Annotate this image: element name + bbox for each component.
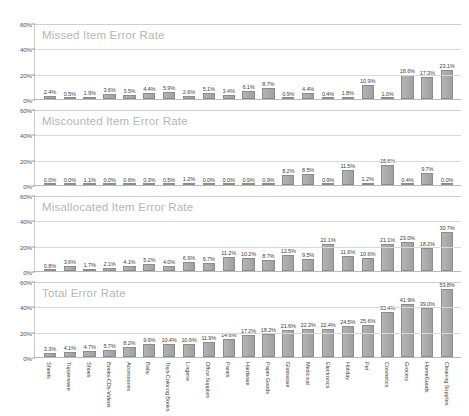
bar-slot: 3.4% [219, 24, 239, 99]
bar [64, 97, 76, 99]
bar-value-label: 11.5% [340, 163, 355, 169]
bar [163, 266, 175, 271]
x-axis-category-cell: Panes [218, 360, 238, 416]
bar-value-label: 3.4% [223, 88, 235, 94]
bar-slot: 4.1% [119, 196, 139, 271]
bar [342, 97, 354, 99]
bar-slot: 6.9% [179, 196, 199, 271]
plot-area-0: Missed Item Error Rate 2.4%0.5%1.9%3.6%3… [34, 24, 461, 100]
bar-slot: 1.2% [358, 110, 378, 185]
bar [183, 96, 195, 99]
bar-slot: 0.5% [60, 24, 80, 99]
bar-value-label: 2.6% [183, 89, 195, 95]
bar [64, 352, 76, 357]
bar [44, 96, 56, 99]
bar-value-label: 0.5% [163, 177, 175, 183]
error-rate-chart-sheet: Missed Item Error Rate 2.4%0.5%1.9%3.6%3… [0, 0, 469, 416]
bar [302, 93, 314, 99]
bar-slot: 0.9% [258, 110, 278, 185]
bar [44, 353, 56, 357]
x-axis-category-cell: Cleaning Supplies [437, 360, 457, 416]
bar-value-label: 10.4% [162, 337, 177, 343]
y-axis-tick-mark [32, 135, 35, 136]
y-axis-tick-label: 0% [23, 183, 32, 190]
x-axis-category-cell: Medicinal [298, 360, 318, 416]
bar-slot: 3.5% [119, 24, 139, 99]
bar-slot: 11.2% [219, 196, 239, 271]
bar-slot: 0.0% [60, 110, 80, 185]
bar-value-label: 3.5% [123, 88, 135, 94]
bar [342, 256, 354, 271]
bar [83, 97, 95, 99]
bar-slot: 6.7% [199, 196, 219, 271]
gridline [35, 110, 461, 111]
bar-slot: 0.9% [318, 110, 338, 185]
y-axis-tick-mark [32, 282, 35, 283]
bar-slot: 0.6% [119, 110, 139, 185]
bar [163, 183, 175, 185]
bar [362, 258, 374, 271]
x-axis-category-label: Shoes [86, 362, 92, 377]
y-axis-tick-mark [32, 246, 35, 247]
plot-area-2: Misallocated Item Error Rate 0.8%3.6%1.7… [34, 196, 461, 272]
y-axis-tick-mark [32, 100, 35, 101]
bar-value-label: 0.9% [282, 91, 294, 97]
bar-value-label: 0.0% [223, 177, 235, 183]
bar-value-label: 22.4% [320, 322, 335, 328]
x-axis-category-label: Sheets [46, 362, 52, 379]
bar-value-label: 3.6% [64, 259, 76, 265]
bar-slot: 1.2% [179, 110, 199, 185]
x-axis-category-label: Cosmetics [384, 362, 390, 387]
bar-slot: 23.0% [397, 196, 417, 271]
bar [83, 269, 95, 271]
bar-slot: 18.6% [397, 24, 417, 99]
bar-value-label: 4.7% [84, 344, 96, 350]
x-axis-category-label: Lingerie [185, 362, 191, 381]
bar [83, 351, 95, 357]
bar-value-label: 0.0% [441, 177, 453, 183]
bar [381, 244, 393, 271]
x-axis-category-cell: Pet [358, 360, 378, 416]
x-axis-category-label: Medicinal [305, 362, 311, 385]
bar-value-label: 0.5% [64, 91, 76, 97]
y-axis-tick-label: 40% [20, 218, 32, 225]
bar-slot: 5.9% [159, 24, 179, 99]
gridline [35, 282, 461, 283]
bar [421, 77, 433, 99]
x-axis-category-cell: Accessories [119, 360, 139, 416]
bar-value-label: 1.2% [183, 176, 195, 182]
x-axis-category-cell: Shoes [79, 360, 99, 416]
bar [282, 97, 294, 99]
x-axis-category-label: Tupperware [66, 362, 72, 391]
bar-value-label: 4.4% [302, 86, 314, 92]
x-axis-category-cell: Tupperware [59, 360, 79, 416]
bar-value-label: 8.5% [302, 167, 314, 173]
bar-value-label: 3.6% [103, 87, 115, 93]
bar [322, 244, 334, 271]
x-axis-category-cell: Toys-Coloring Books [158, 360, 178, 416]
bar [183, 262, 195, 271]
x-axis-category-label: Cleaning Supplies [444, 362, 450, 405]
bar-value-label: 0.0% [44, 177, 56, 183]
bar-slot: 1.8% [338, 24, 358, 99]
bar-value-label: 11.6% [340, 249, 355, 255]
bar-slot: 17.3% [417, 24, 437, 99]
bar-slot: 21.6% [278, 282, 298, 357]
y-axis-tick-mark [32, 221, 35, 222]
bar-value-label: 21.1% [380, 237, 395, 243]
bar [242, 91, 254, 99]
y-axis-tick-label: 60% [20, 279, 32, 286]
bar-value-label: 8.7% [262, 253, 274, 259]
bar-slot: 8.7% [258, 196, 278, 271]
y-axis-tick-mark [32, 358, 35, 359]
bar-value-label: 0.9% [262, 177, 274, 183]
bar-slot: 15.6% [378, 110, 398, 185]
bar [103, 94, 115, 99]
bar [342, 326, 354, 357]
x-axis-category-label: Paper Goods [265, 362, 271, 394]
bar [362, 183, 374, 185]
bar-slot: 0.0% [437, 110, 457, 185]
bar-value-label: 6.1% [242, 84, 254, 90]
bar [223, 95, 235, 99]
bar-slot: 10.9% [358, 24, 378, 99]
